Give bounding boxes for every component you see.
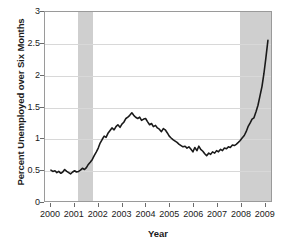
x-axis-tick-labels: 2000200120022003200420052006200720082009 (44, 203, 272, 225)
x-tick-mark-2008 (241, 203, 242, 207)
series-line-unemployment (51, 40, 268, 174)
x-tick-mark-2001 (74, 203, 75, 207)
x-tick-label-2005: 2005 (159, 209, 179, 219)
plot-area (44, 11, 272, 202)
x-tick-mark-2002 (98, 203, 99, 207)
x-tick-label-2002: 2002 (88, 209, 108, 219)
y-tick-label-0: 0 (20, 198, 40, 207)
y-tick-label-3: 3 (20, 7, 40, 16)
y-tick-label-2: 2 (20, 71, 40, 80)
x-tick-label-2004: 2004 (135, 209, 155, 219)
y-axis-tick-labels: 00.511.522.53 (20, 0, 40, 249)
y-tick-label-1.5: 1.5 (20, 103, 40, 112)
y-tick-label-0.5: 0.5 (20, 166, 40, 175)
x-tick-label-2008: 2008 (231, 209, 251, 219)
x-tick-mark-2007 (217, 203, 218, 207)
x-tick-label-2009: 2009 (255, 209, 275, 219)
x-tick-label-2001: 2001 (64, 209, 84, 219)
x-tick-mark-2004 (145, 203, 146, 207)
x-tick-mark-2005 (169, 203, 170, 207)
y-tick-label-2.5: 2.5 (20, 39, 40, 48)
x-tick-mark-2003 (122, 203, 123, 207)
y-tick-label-1: 1 (20, 134, 40, 143)
x-tick-label-2000: 2000 (40, 209, 60, 219)
unemployment-line-chart: Percent Unemployed over Six Months 00.51… (0, 0, 292, 249)
series-svg (45, 12, 271, 201)
x-tick-label-2003: 2003 (112, 209, 132, 219)
x-tick-label-2007: 2007 (207, 209, 227, 219)
x-tick-label-2006: 2006 (183, 209, 203, 219)
x-tick-mark-2000 (50, 203, 51, 207)
x-tick-mark-2009 (265, 203, 266, 207)
x-tick-mark-2006 (193, 203, 194, 207)
x-axis-title: Year (44, 228, 272, 239)
